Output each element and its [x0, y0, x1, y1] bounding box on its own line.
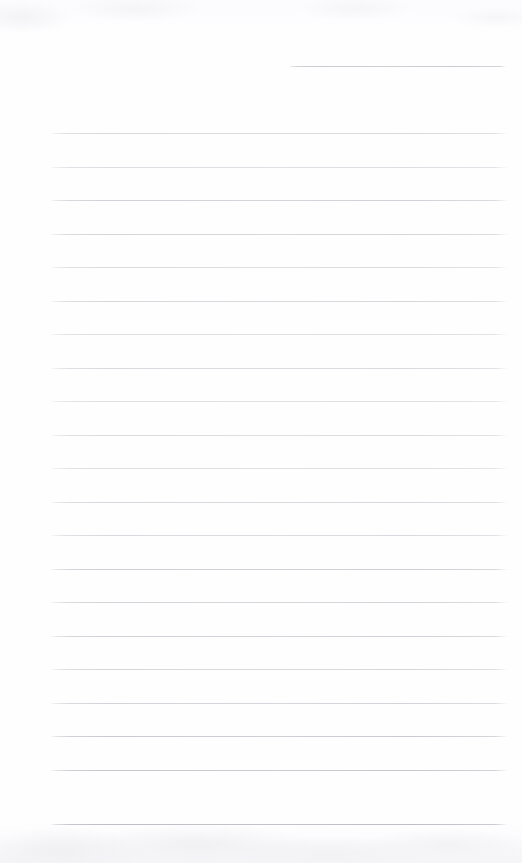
- bottom-scan-smudge: [0, 837, 522, 863]
- rule-line-ink: [50, 267, 508, 268]
- paper-texture: [0, 0, 522, 863]
- rule-line: [50, 267, 508, 268]
- rule-line-ink: [50, 824, 508, 825]
- rule-line-ink: [50, 167, 508, 168]
- rule-line-ink: [50, 636, 508, 637]
- rule-line-ink: [50, 200, 508, 201]
- rule-line: [50, 368, 508, 369]
- rule-line: [50, 703, 508, 704]
- rule-line: [50, 535, 508, 536]
- rule-line: [50, 301, 508, 302]
- rule-line: [50, 636, 508, 637]
- rule-line-ink: [289, 66, 506, 67]
- rule-line: [50, 569, 508, 570]
- rule-line-ink: [50, 569, 508, 570]
- rule-line-ink: [50, 602, 508, 603]
- rule-line-ink: [50, 133, 508, 134]
- rule-line: [50, 468, 508, 469]
- rule-line-ink: [50, 535, 508, 536]
- rule-line-ink: [50, 770, 508, 771]
- rule-line: [50, 824, 508, 825]
- rule-line: [50, 602, 508, 603]
- rule-line: [50, 401, 508, 402]
- rule-line-ink: [50, 736, 508, 737]
- rule-line: [50, 736, 508, 737]
- rule-line: [50, 200, 508, 201]
- rule-line: [50, 334, 508, 335]
- rule-line-ink: [50, 703, 508, 704]
- rule-line-ink: [50, 401, 508, 402]
- rule-line-ink: [50, 334, 508, 335]
- rule-line-ink: [50, 502, 508, 503]
- rule-line: [50, 167, 508, 168]
- rule-line-ink: [50, 468, 508, 469]
- rule-line: [50, 502, 508, 503]
- rule-line-ink: [50, 669, 508, 670]
- rule-line-ink: [50, 435, 508, 436]
- scanned-page: [0, 0, 522, 863]
- rule-line: [50, 133, 508, 134]
- rule-line: [50, 435, 508, 436]
- rule-line: [50, 669, 508, 670]
- rule-line: [289, 66, 506, 67]
- rule-line-ink: [50, 234, 508, 235]
- rule-line: [50, 770, 508, 771]
- rule-line: [50, 234, 508, 235]
- rule-line-ink: [50, 368, 508, 369]
- rule-line-ink: [50, 301, 508, 302]
